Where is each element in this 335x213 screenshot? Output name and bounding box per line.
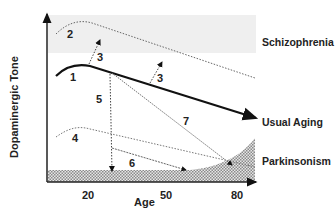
- x-tick-80: 80: [231, 189, 243, 201]
- arrow-6: [112, 148, 186, 170]
- parkinsonism-label: Parkinsonism: [262, 155, 331, 167]
- dopamine-age-diagram: 2 3 1 3 5 7 4 6 Schizophrenia Usual Agin…: [0, 0, 335, 213]
- curve-1-usual-aging: [56, 65, 256, 118]
- label-5: 5: [96, 93, 102, 105]
- label-3-left: 3: [97, 51, 103, 63]
- y-axis-label: Dopaminergic Tone: [8, 56, 20, 158]
- schizophrenia-region: [48, 15, 256, 53]
- x-tick-20: 20: [82, 189, 94, 201]
- arrow-7: [112, 73, 232, 165]
- schizophrenia-label: Schizophrenia: [262, 36, 334, 48]
- label-4: 4: [72, 132, 79, 144]
- x-tick-50: 50: [160, 189, 172, 201]
- label-7: 7: [183, 115, 189, 127]
- label-6: 6: [129, 157, 135, 169]
- arrow-5: [110, 74, 112, 171]
- parkinsonism-region: [48, 138, 255, 182]
- label-1: 1: [70, 71, 76, 83]
- label-2: 2: [67, 28, 73, 40]
- label-3-right: 3: [157, 72, 163, 84]
- usual-aging-label: Usual Aging: [262, 116, 323, 128]
- x-axis-label: Age: [134, 196, 155, 208]
